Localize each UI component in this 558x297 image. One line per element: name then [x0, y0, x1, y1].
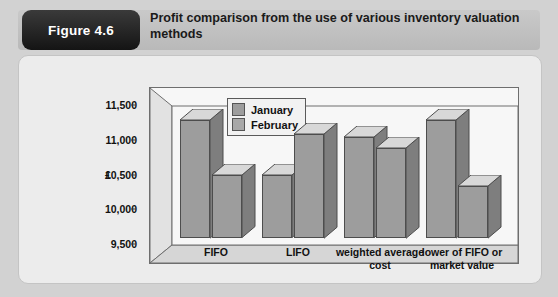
figure-card: £ 9,50010,00010,50011,00011,500 January …: [18, 55, 542, 284]
x-axis-label: LIFO: [258, 246, 338, 259]
bar-top-face: [426, 109, 469, 121]
bar-front-face: [344, 137, 374, 238]
legend-label-february: February: [251, 119, 298, 131]
y-axis-tick-mark: [131, 105, 136, 106]
bar-front-face: [458, 186, 488, 238]
bar-february: [294, 123, 334, 245]
bar-top-face: [458, 175, 501, 187]
y-axis-tick-mark: [131, 244, 136, 245]
legend-swatch-january: [232, 103, 245, 116]
x-axis-label: lower of FIFO or market value: [412, 246, 512, 272]
bar-side-face: [406, 137, 420, 239]
bar-february: [212, 164, 252, 245]
bar-front-face: [180, 120, 210, 238]
y-axis-tick-label: 11,000: [77, 134, 137, 146]
bar-front-face: [294, 134, 324, 238]
legend-label-january: January: [251, 104, 293, 116]
y-axis-tick-mark: [131, 174, 136, 175]
bar-february: [458, 175, 498, 245]
legend-swatch-february: [232, 118, 245, 131]
plot-area: January February: [149, 87, 519, 264]
bar-front-face: [212, 175, 242, 238]
bar-side-face: [324, 123, 338, 239]
bar-top-face: [212, 164, 255, 176]
bar-front-face: [426, 120, 456, 238]
figure-title: Profit comparison from the use of variou…: [150, 11, 530, 42]
y-axis-tick-label: 10,000: [77, 203, 137, 215]
bar-front-face: [376, 148, 406, 238]
bar-top-face: [180, 109, 223, 121]
y-axis: £ 9,50010,00010,50011,00011,500: [67, 87, 137, 262]
y-axis-tick-label: 10,500: [77, 169, 137, 181]
y-axis-tick-mark: [131, 139, 136, 140]
figure-number-badge: Figure 4.6: [22, 10, 140, 50]
x-axis-label: FIFO: [176, 246, 256, 259]
bar-february: [376, 137, 416, 245]
y-axis-tick-mark: [131, 209, 136, 210]
y-axis-tick-label: 9,500: [77, 238, 137, 250]
bar-top-face: [294, 123, 337, 135]
legend-item-january: January: [232, 102, 298, 117]
legend-item-february: February: [232, 117, 298, 132]
bar-top-face: [376, 137, 419, 149]
y-axis-tick-label: 11,500: [77, 99, 137, 111]
bar-front-face: [262, 175, 292, 238]
